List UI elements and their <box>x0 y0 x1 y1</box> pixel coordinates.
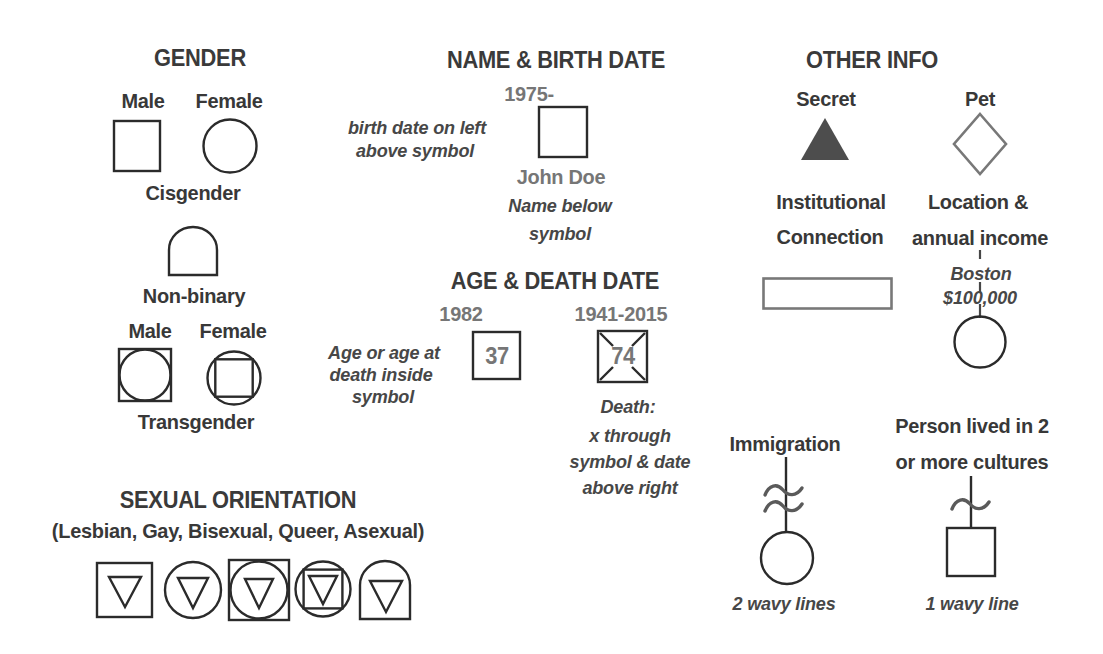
age-note-line2: death inside <box>329 365 432 384</box>
so-male-symbol <box>95 560 155 620</box>
institutional-label-line1: Institutional <box>776 191 885 212</box>
person-name-value: John Doe <box>517 166 606 187</box>
name-note-line1: Name below <box>508 196 611 215</box>
nonbinary-symbol <box>166 224 220 278</box>
cultures-note: 1 wavy line <box>925 594 1018 613</box>
location-dashed-line <box>977 250 983 320</box>
transgender-female-symbol <box>205 349 263 407</box>
age-birth-year-value: 1982 <box>439 303 482 324</box>
transgender-label: Transgender <box>138 411 255 432</box>
so-female-symbol <box>162 559 224 621</box>
immigration-note: 2 wavy lines <box>732 594 835 613</box>
secret-label: Secret <box>796 88 855 109</box>
location-label-line1: Location & <box>928 191 1028 212</box>
cultures-label-line1: Person lived in 2 <box>895 415 1049 436</box>
location-income-symbol <box>952 314 1008 370</box>
location-city-value: Boston <box>950 264 1011 283</box>
so-trans-male-symbol <box>227 558 291 622</box>
cisgender-label: Cisgender <box>146 182 241 203</box>
cisgender-female-symbol <box>201 117 259 175</box>
immigration-label: Immigration <box>729 433 840 454</box>
cis-female-label: Female <box>195 90 262 111</box>
institutional-label-line2: Connection <box>777 226 884 247</box>
death-note-line1: Death: <box>600 397 655 416</box>
age-note-line3: symbol <box>352 387 414 406</box>
trans-male-label: Male <box>128 320 171 341</box>
birth-date-value: 1975- <box>504 83 554 104</box>
transgender-male-symbol <box>117 347 173 403</box>
death-age-value: 74 <box>611 345 635 368</box>
secret-symbol <box>799 115 851 163</box>
immigration-symbol <box>759 457 815 589</box>
location-income-value: $100,000 <box>943 288 1017 307</box>
name-example-symbol <box>537 105 589 159</box>
cis-male-label: Male <box>121 90 164 111</box>
pet-symbol <box>951 111 1009 177</box>
cultures-symbol <box>944 476 1000 580</box>
trans-female-label: Female <box>199 320 266 341</box>
age-note-line1: Age or age at <box>328 343 440 362</box>
cultures-label-line2: or more cultures <box>896 451 1049 472</box>
death-years-value: 1941-2015 <box>575 303 668 324</box>
other-info-title: OTHER INFO <box>806 49 938 72</box>
so-trans-female-symbol <box>293 559 353 619</box>
cisgender-male-symbol <box>112 119 162 173</box>
birth-note-line2: above symbol <box>356 141 474 160</box>
nonbinary-label: Non-binary <box>143 285 245 306</box>
death-note-line2: x through <box>589 426 671 445</box>
death-note-line4: above right <box>582 478 677 497</box>
institutional-connection-symbol <box>762 277 893 311</box>
name-birth-title: NAME & BIRTH DATE <box>447 49 665 72</box>
so-nonbinary-symbol <box>357 558 413 622</box>
sexual-orientation-subtitle: (Lesbian, Gay, Bisexual, Queer, Asexual) <box>52 520 424 541</box>
genogram-legend: GENDER Male Female Cisgender Non-binary … <box>0 0 1103 654</box>
pet-label: Pet <box>965 88 995 109</box>
gender-title: GENDER <box>154 47 246 70</box>
location-label-line2: annual income <box>912 227 1048 248</box>
age-death-title: AGE & DEATH DATE <box>451 270 659 293</box>
age-value: 37 <box>485 345 509 368</box>
sexual-orientation-title: SEXUAL ORIENTATION <box>120 489 356 512</box>
name-note-line2: symbol <box>529 224 591 243</box>
death-note-line3: symbol & date <box>570 452 691 471</box>
birth-note-line1: birth date on left <box>348 118 486 137</box>
